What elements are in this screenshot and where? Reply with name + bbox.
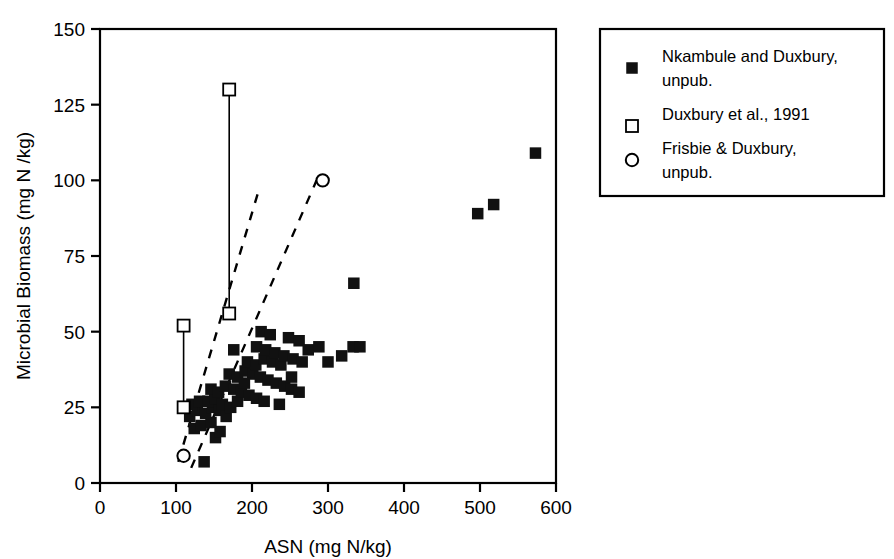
data-point-s2-1 [177, 450, 189, 462]
x-tick-label-500: 500 [464, 497, 496, 518]
data-point-s0-63 [348, 277, 360, 289]
x-tick-label-600: 600 [540, 497, 572, 518]
y-tick-label-100: 100 [53, 170, 85, 191]
data-point-s0-3 [195, 420, 207, 432]
legend-label-line2-2: unpub. [662, 163, 712, 181]
y-tick-label-125: 125 [53, 95, 85, 116]
data-point-s0-64 [472, 208, 484, 220]
legend-marker-open-circle [626, 154, 638, 166]
data-point-s0-65 [488, 199, 500, 211]
legend-label-line2-0: unpub. [662, 71, 712, 89]
legend-label-line1-1: Duxbury et al., 1991 [662, 105, 810, 123]
data-point-s0-50 [264, 329, 276, 341]
x-tick-label-100: 100 [160, 497, 192, 518]
data-point-s0-66 [530, 147, 542, 159]
data-point-s0-37 [293, 386, 305, 398]
data-point-s0-58 [313, 341, 325, 353]
data-point-s0-5 [214, 426, 226, 438]
y-tick-label-75: 75 [64, 246, 85, 267]
data-points-layer [177, 84, 541, 468]
data-point-s0-48 [296, 356, 308, 368]
x-tick-label-200: 200 [236, 497, 268, 518]
data-point-s0-0 [198, 456, 210, 468]
x-axis-title: ASN (mg N/kg) [264, 536, 392, 557]
data-point-s0-53 [228, 344, 240, 356]
data-point-s0-54 [239, 377, 251, 389]
data-point-s0-56 [286, 371, 298, 383]
legend-label-line1-2: Frisbie & Duxbury, [662, 139, 796, 157]
data-point-s1-0 [178, 320, 190, 332]
legend-layer: Nkambule and Duxbury,unpub.Duxbury et al… [600, 29, 884, 196]
x-axis-ticks-layer: 0100200300400500600 [95, 483, 572, 518]
scatter-plot-figure: 0100200300400500600 0255075100125150 ASN… [0, 0, 894, 559]
y-tick-label-50: 50 [64, 322, 85, 343]
data-point-s2-0 [316, 174, 328, 186]
x-tick-label-300: 300 [312, 497, 344, 518]
data-point-s0-62 [354, 341, 366, 353]
y-axis-ticks-layer: 0255075100125150 [53, 19, 100, 494]
axis-titles-layer: ASN (mg N/kg)Microbial Biomass (mg N /kg… [13, 132, 392, 557]
x-tick-label-0: 0 [95, 497, 106, 518]
legend-marker-filled-square [626, 62, 638, 74]
range-connector-layer [184, 90, 230, 408]
y-tick-label-0: 0 [74, 473, 85, 494]
x-tick-label-400: 400 [388, 497, 420, 518]
data-point-s1-2 [223, 84, 235, 96]
data-point-s0-57 [302, 344, 314, 356]
data-point-s1-3 [223, 308, 235, 320]
y-axis-title: Microbial Biomass (mg N /kg) [13, 132, 34, 380]
data-point-s0-51 [283, 332, 295, 344]
plot-frame [100, 29, 556, 483]
y-tick-label-25: 25 [64, 397, 85, 418]
legend-marker-open-square [626, 120, 638, 132]
plot-frame-layer [100, 29, 556, 483]
chart-svg: 0100200300400500600 0255075100125150 ASN… [0, 0, 894, 559]
data-point-s1-1 [178, 401, 190, 413]
data-point-s0-55 [274, 399, 286, 411]
data-point-s0-59 [322, 356, 334, 368]
legend-label-line1-0: Nkambule and Duxbury, [662, 47, 838, 65]
y-tick-label-150: 150 [53, 19, 85, 40]
data-point-s0-60 [336, 350, 348, 362]
data-point-s0-27 [258, 396, 270, 408]
